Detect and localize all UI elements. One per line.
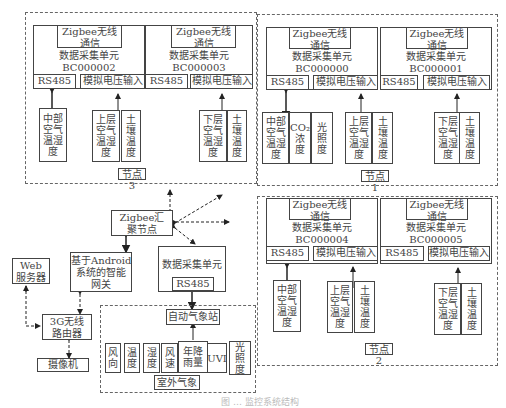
weather-sensor: 风 向 xyxy=(105,343,121,373)
dau-id: BC000003 xyxy=(146,62,252,74)
rs485-port: RS485 xyxy=(33,74,76,89)
sensor: 中部 空气 温湿 度 xyxy=(262,112,289,164)
sensor: 光 照 度 xyxy=(311,112,333,164)
weather-sensor: 光 照 度 xyxy=(229,341,251,375)
zigbee-module: Zigbee无线 通信 xyxy=(406,198,468,220)
rs485-port: RS485 xyxy=(266,75,309,90)
analog-input-port: 模拟电压输入 xyxy=(313,75,378,90)
dau-id: BC000004 xyxy=(267,234,377,246)
node1-dau-2: Zigbee无线 通信 数据采集单元 BC000001 RS485 模拟电压输入 xyxy=(380,27,492,90)
node1-label: 节点1 xyxy=(361,170,389,182)
weather-dau: 数据采集单元 RS485 xyxy=(158,246,226,292)
node3-label: 节点3 xyxy=(118,168,146,180)
dau-title: 数据采集单元 xyxy=(381,222,491,234)
zigbee-module: Zigbee无线 通信 xyxy=(289,27,351,49)
camera: 摄像机 xyxy=(37,358,89,372)
sensor: 上层 空气 温湿 度 xyxy=(345,112,372,164)
analog-input-port: 模拟电压输入 xyxy=(80,74,145,89)
rs485-port: RS485 xyxy=(145,74,188,89)
rs485-port: RS485 xyxy=(266,246,309,261)
dau-id: BC000001 xyxy=(381,63,491,75)
sensor: 土 壤 温 度 xyxy=(372,112,393,164)
dau-title: 数据采集单元 xyxy=(146,50,252,62)
sensor: 土 壤 温 度 xyxy=(459,112,480,164)
analog-input-port: 模拟电压输入 xyxy=(428,246,490,261)
node2-label: 节点2 xyxy=(365,343,393,355)
dau-title: 数据采集单元 xyxy=(159,259,225,271)
weather-station: 自动气象站 xyxy=(166,309,220,325)
sensor: 土 壤 温 度 xyxy=(461,283,482,335)
sensor: 下层 空气 温湿 度 xyxy=(199,110,227,162)
weather-sensor: 年降 雨量 xyxy=(178,341,208,373)
dau-title: 数据采集单元 xyxy=(381,51,491,63)
zigbee-module: Zigbee无线 通信 xyxy=(289,198,351,220)
node2-dau-1: Zigbee无线 通信 数据采集单元 BC000004 RS485 模拟电压输入 xyxy=(266,198,378,264)
dau-id: BC000005 xyxy=(381,234,491,246)
sensor: 上层 空气 温湿 度 xyxy=(327,281,353,333)
weather-label: 室外气象 xyxy=(154,375,200,390)
dau-id: BC000002 xyxy=(34,62,144,74)
sensor: 土 壤 温 度 xyxy=(227,110,247,162)
dau-title: 数据采集单元 xyxy=(267,51,377,63)
analog-input-port: 模拟电压输入 xyxy=(423,75,490,90)
weather-sensor: 风 速 xyxy=(161,343,178,373)
node2-dau-2: Zigbee无线 通信 数据采集单元 BC000005 RS485 模拟电压输入 xyxy=(380,198,492,264)
dau-title: 数据采集单元 xyxy=(34,50,144,62)
android-gateway: 基于Android 系统的智能 网关 xyxy=(70,252,132,292)
sensor: 上层 空气 温湿 度 xyxy=(92,110,120,162)
zigbee-module: Zigbee无线 通信 xyxy=(57,25,122,48)
sensor: CO₂ 浓 度 xyxy=(289,112,311,164)
sensor: 中部 空气 温湿 度 xyxy=(39,108,67,162)
sensor: 中部 空气 温湿 度 xyxy=(273,280,301,332)
node1-dau-1: Zigbee无线 通信 数据采集单元 BC000000 RS485 模拟电压输入 xyxy=(266,27,378,90)
sensor: 土 壤 温 度 xyxy=(121,110,141,162)
node3-dau-1: Zigbee无线 通信 数据采集单元 BC000002 RS485 模拟电压输入 xyxy=(33,25,145,89)
sensor: 土 壤 温 度 xyxy=(354,281,375,333)
figure-caption: 图 … 监控系统结构 xyxy=(140,396,380,408)
weather-sensor: 温 度 xyxy=(124,343,140,373)
rs485-port: RS485 xyxy=(380,75,418,90)
zigbee-sink-node: Zigbee汇 聚节点 xyxy=(111,210,173,236)
weather-sensor: 湿 度 xyxy=(143,343,160,373)
rs485-port: RS485 xyxy=(380,246,424,261)
dau-title: 数据采集单元 xyxy=(267,222,377,234)
analog-input-port: 模拟电压输入 xyxy=(190,74,253,89)
dau-id: BC000000 xyxy=(267,63,377,75)
node3-dau-2: Zigbee无线 通信 数据采集单元 BC000003 RS485 模拟电压输入 xyxy=(145,25,253,89)
sensor: 下层 空气 温湿 度 xyxy=(434,283,461,335)
weather-sensor: UVI xyxy=(207,343,227,373)
sensor: 下层 空气 温湿 度 xyxy=(434,112,461,164)
rs485-port: RS485 xyxy=(172,277,214,291)
web-server: Web 服务器 xyxy=(12,258,50,284)
zigbee-module: Zigbee无线 通信 xyxy=(406,27,468,49)
analog-input-port: 模拟电压输入 xyxy=(313,246,378,261)
zigbee-module: Zigbee无线 通信 xyxy=(171,25,236,48)
3g-router: 3G无线 路由器 xyxy=(42,314,92,340)
